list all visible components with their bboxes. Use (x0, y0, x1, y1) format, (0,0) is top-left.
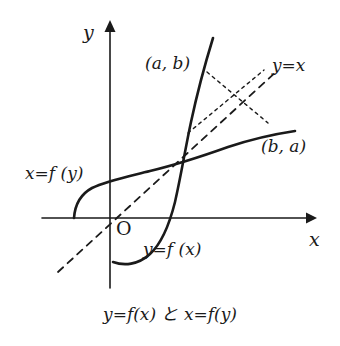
origin-label: O (116, 219, 132, 238)
connector-reflection-chord (188, 70, 264, 133)
point-ab-label: (a, b) (145, 55, 190, 72)
x-axis-arrow-icon (306, 213, 317, 224)
line-y-equals-x-label: y=x (272, 57, 305, 74)
point-ba-label: (b, a) (261, 138, 306, 155)
curve-x-equals-f-y-label: x=f (y) (25, 165, 83, 182)
y-axis-label: y (83, 23, 94, 42)
connector-ab-to-ba (207, 72, 268, 123)
x-axis-label: x (309, 230, 320, 249)
curve-y-equals-f-x-label: y=f (x) (143, 241, 201, 258)
figure-root: y x O (a, b) (b, a) y=x x=f (y) y=f (x) … (0, 0, 340, 346)
y-axis-arrow-icon (105, 20, 116, 32)
figure-caption: y=f(x) と x=f(y) (0, 300, 340, 325)
